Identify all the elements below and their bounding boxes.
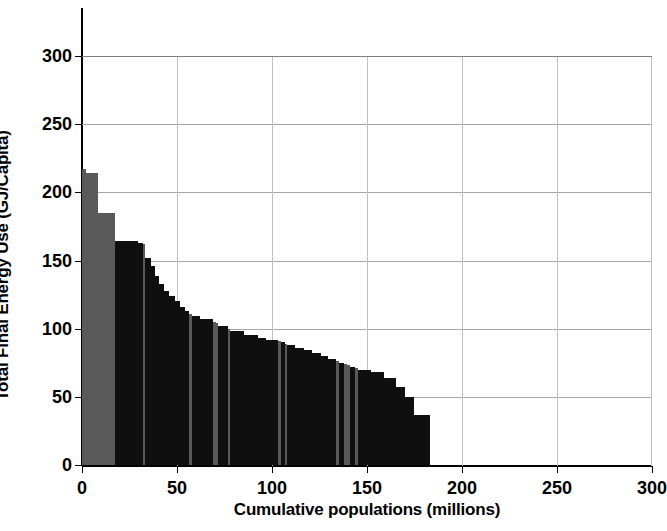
y-tick-mark xyxy=(75,124,82,125)
x-tick-label: 250 xyxy=(542,478,572,499)
bar xyxy=(405,397,414,465)
x-tick-label: 0 xyxy=(77,478,87,499)
bar xyxy=(304,350,312,465)
bar xyxy=(287,345,295,465)
y-tick-mark xyxy=(75,329,82,330)
bar xyxy=(321,356,329,465)
bar xyxy=(98,213,115,465)
x-tick-mark xyxy=(82,466,83,473)
x-tick-mark xyxy=(557,466,558,473)
bar xyxy=(230,331,243,465)
y-tick-label: 200 xyxy=(42,182,72,203)
bar xyxy=(266,340,278,465)
x-tick-label: 50 xyxy=(167,478,187,499)
x-tick-mark xyxy=(177,466,178,473)
x-tick-mark xyxy=(652,466,653,473)
bar xyxy=(115,241,139,465)
y-tick-label: 150 xyxy=(42,250,72,271)
bar xyxy=(295,348,305,465)
y-tick-label: 100 xyxy=(42,318,72,339)
gridline-vertical xyxy=(462,57,463,466)
bar xyxy=(244,335,258,465)
bar xyxy=(414,415,430,465)
y-tick-mark xyxy=(75,56,82,57)
x-tick-label: 300 xyxy=(637,478,667,499)
bar xyxy=(88,173,98,465)
y-tick-label: 0 xyxy=(62,455,72,476)
x-tick-mark xyxy=(272,466,273,473)
bar xyxy=(218,326,228,465)
y-tick-label: 50 xyxy=(52,386,72,407)
x-tick-mark xyxy=(462,466,463,473)
bar xyxy=(328,359,336,465)
bar xyxy=(192,316,200,465)
y-tick-label: 300 xyxy=(42,46,72,67)
y-tick-mark xyxy=(75,261,82,262)
bar xyxy=(384,378,395,465)
bar xyxy=(358,370,371,465)
y-tick-mark xyxy=(75,397,82,398)
y-tick-mark xyxy=(75,465,82,466)
bar xyxy=(371,372,384,465)
plot-area: 050100150200250300050100150200250300 xyxy=(82,8,652,466)
x-tick-label: 100 xyxy=(257,478,287,499)
bar xyxy=(200,319,213,465)
y-tick-mark xyxy=(75,192,82,193)
x-tick-label: 200 xyxy=(447,478,477,499)
bar xyxy=(312,353,321,465)
y-tick-label: 250 xyxy=(42,114,72,135)
x-tick-mark xyxy=(367,466,368,473)
x-axis-title: Cumulative populations (millions) xyxy=(82,500,652,520)
bar xyxy=(258,338,266,465)
gridline-vertical xyxy=(557,57,558,466)
x-tick-label: 150 xyxy=(352,478,382,499)
bar xyxy=(396,387,406,465)
gridline-vertical xyxy=(651,57,652,466)
